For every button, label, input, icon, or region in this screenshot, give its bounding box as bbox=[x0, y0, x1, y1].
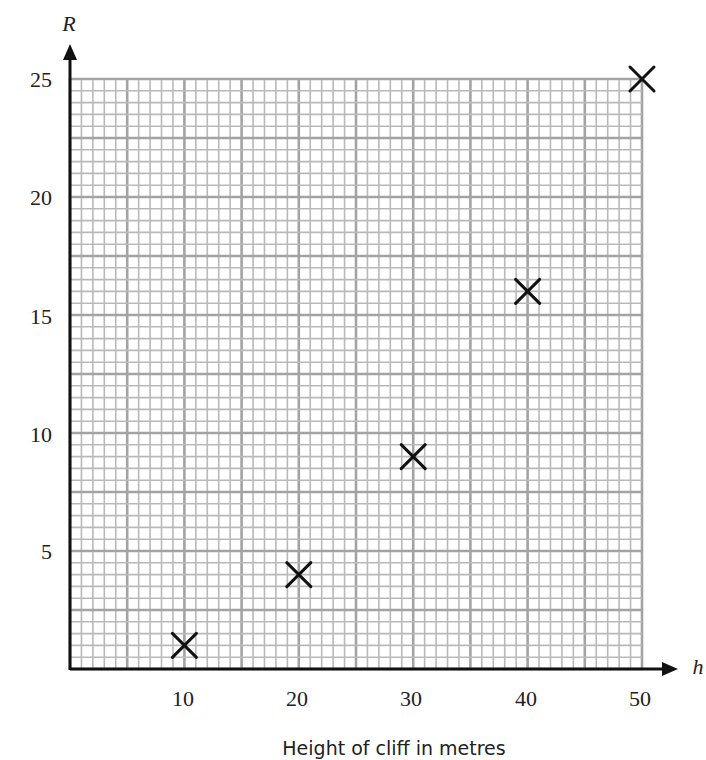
x-tick-label: 50 bbox=[629, 686, 651, 711]
x-axis-symbol: h bbox=[693, 654, 704, 679]
y-axis-arrow-icon bbox=[63, 44, 77, 60]
x-tick-label: 40 bbox=[515, 686, 537, 711]
y-tick-labels: 5 10 15 20 25 bbox=[30, 67, 52, 564]
x-tick-label: 10 bbox=[172, 686, 194, 711]
graph-paper-grid bbox=[70, 79, 642, 669]
y-tick-label: 25 bbox=[30, 67, 52, 92]
x-tick-label: 20 bbox=[286, 686, 308, 711]
x-axis-arrow-icon bbox=[662, 662, 678, 676]
y-axis-symbol: R bbox=[61, 11, 76, 36]
scatter-chart: 10 20 30 40 50 5 10 15 20 25 R h Height … bbox=[0, 0, 706, 760]
x-tick-labels: 10 20 30 40 50 bbox=[172, 686, 651, 711]
y-tick-label: 15 bbox=[30, 304, 52, 329]
y-tick-label: 5 bbox=[41, 539, 52, 564]
x-tick-label: 30 bbox=[400, 686, 422, 711]
y-tick-label: 10 bbox=[30, 422, 52, 447]
x-axis-caption: Height of cliff in metres bbox=[282, 737, 505, 759]
y-tick-label: 20 bbox=[30, 185, 52, 210]
